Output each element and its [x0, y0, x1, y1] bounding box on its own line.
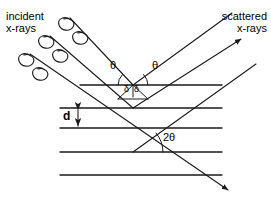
wave-squiggles-ray-2 — [39, 36, 68, 62]
scattered-label-line1: scattered — [222, 10, 267, 22]
scattered-xrays-label: scatteredx-rays — [222, 10, 267, 35]
d-spacing-label: d — [63, 110, 70, 123]
wave-squiggles-ray-1 — [59, 18, 88, 44]
two-theta-label: 2θ — [163, 131, 175, 143]
normal-wedge — [118, 85, 148, 99]
scattered-ray-1 — [133, 13, 232, 85]
theta-arc-left — [118, 75, 123, 86]
bragg-diffraction-figure: incidentx-rays scatteredx-rays θ θ δ δ d… — [0, 0, 271, 203]
delta-right-label: δ — [134, 84, 139, 94]
scattered-label-line2: x-rays — [237, 22, 267, 34]
theta-arcs — [118, 75, 148, 86]
incident-ray-3-transmitted — [30, 54, 228, 190]
incident-label-line1: incident — [6, 10, 44, 22]
theta-left-label: θ — [110, 59, 116, 71]
wave-squiggles-ray-3 — [19, 54, 48, 80]
incident-label-line2: x-rays — [6, 22, 36, 34]
theta-right-label: θ — [152, 59, 158, 71]
delta-left-label: δ — [124, 84, 129, 94]
incident-xrays-label: incidentx-rays — [6, 10, 44, 35]
incident-rays — [30, 18, 228, 190]
incident-ray-1 — [70, 18, 133, 85]
